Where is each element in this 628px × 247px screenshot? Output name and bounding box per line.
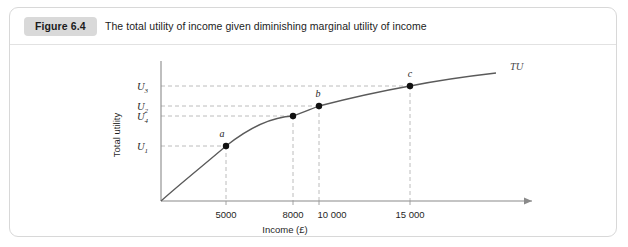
figure-caption: The total utility of income given dimini… (105, 18, 427, 35)
figure-header: Figure 6.4 The total utility of income g… (10, 8, 616, 45)
curve-label-tu: TU (510, 61, 525, 72)
x-tick-label-15000: 15 000 (395, 209, 424, 220)
data-point-c (407, 83, 413, 89)
point-label-b: b (316, 88, 321, 99)
x-tick-label-8000: 8000 (282, 209, 303, 220)
y-axis-title: Total utility (111, 113, 122, 158)
y-tick-label-u3: U3 (137, 81, 149, 95)
utility-curve-svg: a b c TU U3 U2 U4 U1 5000 8000 10 000 15… (10, 45, 616, 237)
total-utility-curve (161, 73, 496, 201)
point-label-c: c (408, 68, 413, 79)
data-point-8000 (290, 113, 296, 119)
x-tick-label-5000: 5000 (215, 209, 236, 220)
data-point-b (316, 103, 322, 109)
data-point-a (223, 143, 229, 149)
x-axis-arrowhead (524, 198, 532, 205)
chart-plot-area: a b c TU U3 U2 U4 U1 5000 8000 10 000 15… (10, 45, 616, 237)
figure-number-badge: Figure 6.4 (24, 17, 97, 36)
x-tick-label-10000: 10 000 (317, 209, 346, 220)
y-tick-label-u1: U1 (137, 141, 148, 155)
figure-card: Figure 6.4 The total utility of income g… (9, 7, 617, 237)
x-axis-title: Income (£) (262, 224, 307, 235)
point-label-a: a (220, 128, 225, 139)
